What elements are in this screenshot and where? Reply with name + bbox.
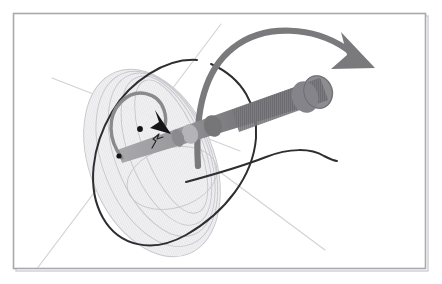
pivot-dot (116, 153, 121, 158)
frame-border (14, 14, 426, 269)
reference-dot (137, 126, 143, 132)
diagram-canvas (0, 0, 442, 284)
figure-root (0, 0, 442, 284)
image-frame (14, 14, 429, 272)
